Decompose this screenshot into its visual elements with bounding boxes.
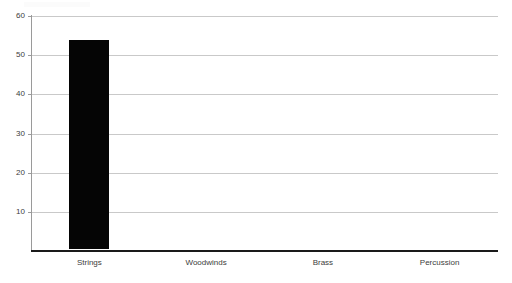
y-axis-tick-label: 10: [0, 208, 25, 216]
gridline: [31, 16, 498, 17]
y-axis-spine: [31, 15, 32, 251]
bar-strings[interactable]: [69, 40, 109, 249]
y-axis-tick-label: 50: [0, 51, 25, 59]
bar-chart: 102030405060 StringsWoodwindsBrassPercus…: [0, 0, 512, 283]
capture-artifact: [24, 2, 90, 7]
x-axis-label-strings: Strings: [31, 259, 148, 267]
x-axis-label-percussion: Percussion: [381, 259, 498, 267]
y-axis-tick-label: 40: [0, 90, 25, 98]
y-axis-tick-label: 30: [0, 130, 25, 138]
plot-area: [31, 16, 498, 250]
y-axis-tick-label: 20: [0, 169, 25, 177]
y-axis-tick-label: 60: [0, 12, 25, 20]
x-axis-label-brass: Brass: [265, 259, 382, 267]
x-axis-label-woodwinds: Woodwinds: [148, 259, 265, 267]
x-axis-baseline: [31, 250, 498, 252]
